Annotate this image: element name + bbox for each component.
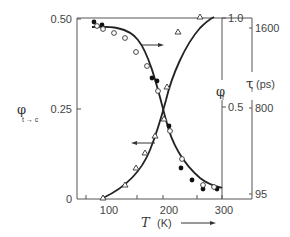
phi-f-tick-05: 0.5 bbox=[228, 101, 243, 113]
left-tick-0: 0 bbox=[66, 193, 72, 205]
x-axis-label: T (K) bbox=[141, 215, 216, 230]
triangle-markers bbox=[100, 14, 203, 200]
x-label-T: T bbox=[141, 215, 151, 230]
x-arrow-head-icon bbox=[210, 221, 216, 225]
tau-tick-800: 800 bbox=[255, 102, 273, 114]
phi-tc-curve bbox=[92, 27, 222, 188]
phi-f-tick-10: 1.0 bbox=[228, 12, 243, 24]
phi-f-subscript: f bbox=[222, 94, 224, 101]
left-axis-label: φ t → c bbox=[17, 102, 39, 123]
open-circle-markers bbox=[95, 24, 217, 190]
phi-f-ticks: 1.0 0.5 φ f bbox=[216, 12, 243, 113]
phi-subscript: t → c bbox=[22, 116, 39, 123]
tau-unit: (ps) bbox=[256, 78, 275, 90]
tau-ticks: 1600 800 95 τ f (ps) bbox=[246, 22, 279, 200]
tau-tick-1600: 1600 bbox=[255, 22, 279, 34]
phi-symbol: φ bbox=[17, 102, 26, 117]
x-tick-300: 300 bbox=[215, 204, 233, 216]
arrow-left-icon bbox=[131, 141, 137, 145]
x-ticks: 100 200 300 bbox=[86, 195, 233, 216]
x-tick-100: 100 bbox=[100, 204, 118, 216]
arrow-right bbox=[142, 43, 164, 47]
left-tick-025: 0.25 bbox=[51, 103, 72, 115]
left-tick-050: 0.50 bbox=[51, 13, 72, 25]
chart: 0.50 0.25 0 φ t → c 100 200 300 T (K) 1.… bbox=[0, 0, 290, 237]
x-label-unit: (K) bbox=[157, 217, 172, 229]
left-ticks: 0.50 0.25 0 bbox=[51, 13, 81, 205]
tau-subscript: f bbox=[251, 86, 253, 93]
tau-tick-95: 95 bbox=[255, 188, 267, 200]
x-tick-200: 200 bbox=[160, 204, 178, 216]
arrow-right-icon bbox=[158, 43, 164, 47]
